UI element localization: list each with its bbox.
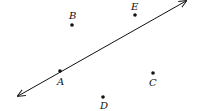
point-e-label: E [130,1,139,12]
point-c-label: C [149,77,157,88]
point-b-label: B [68,10,76,21]
point-a-label: A [56,76,64,87]
point-b-dot [70,23,74,27]
point-d-label: D [99,100,108,111]
point-e-dot [133,13,137,17]
line-through-a [18,1,186,96]
point-c-dot [151,71,155,75]
point-a-dot [58,69,62,73]
point-d-dot [101,95,105,99]
geometry-diagram: ABECD [0,0,200,111]
